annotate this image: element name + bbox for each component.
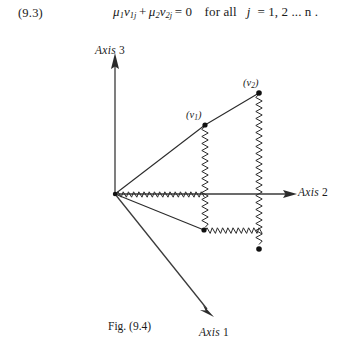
axis-2-label-word: Axis — [298, 186, 319, 198]
figure-caption: Fig. (9.4) — [108, 320, 151, 332]
zigzag-v2-drop — [256, 94, 262, 245]
zigzag-v1-to-v2-projection — [205, 228, 262, 234]
node-dot-v2 — [256, 90, 262, 96]
axis-1-line — [115, 194, 207, 309]
zigzag-v1-drop — [202, 126, 208, 228]
point-label-v1-symbol: (v — [186, 109, 194, 120]
point-label-v1-close: ) — [198, 109, 202, 120]
axis-1-arrowhead — [200, 305, 214, 317]
axis-3-label-number: 3 — [119, 44, 125, 56]
point-label-v1: (v1) — [186, 109, 201, 122]
figure-page: (9.3) μ1v1j+μ2v2j= 0for allj= 1, 2 ... n… — [0, 0, 358, 351]
vector-origin-to-v1-projection — [115, 194, 204, 230]
axis-1-label-number: 1 — [223, 326, 229, 338]
node-dot-v1-projection — [201, 227, 206, 232]
point-label-v2-symbol: (v — [243, 77, 251, 88]
vector-v1-to-v2 — [205, 93, 259, 125]
node-dot-v2-projection — [256, 246, 262, 252]
axis-2-label: Axis 2 — [298, 186, 328, 198]
vector-origin-to-v1 — [115, 125, 205, 194]
axis-1-label: Axis 1 — [199, 326, 229, 338]
point-label-v2: (v2) — [243, 77, 258, 90]
node-dot-origin — [113, 192, 117, 196]
axis-diagram — [0, 0, 358, 351]
node-dot-v1 — [202, 122, 207, 127]
axis-2-label-number: 2 — [322, 186, 328, 198]
point-label-v2-close: ) — [255, 77, 259, 88]
axis-3-label-word: Axis — [95, 44, 116, 56]
axis-1-label-word: Axis — [199, 326, 220, 338]
axis-3-label: Axis 3 — [95, 44, 125, 56]
